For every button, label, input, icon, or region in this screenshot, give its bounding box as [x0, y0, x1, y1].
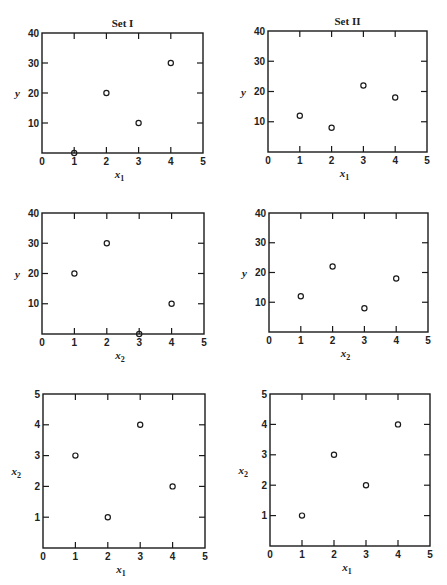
x-tick-label: 5: [200, 156, 206, 167]
plot-frame: [43, 394, 205, 548]
scatter-plot-matrix: Set I01234510203040x1ySet II012345102030…: [0, 0, 447, 585]
x-tick-label: 4: [395, 549, 401, 560]
data-point: [363, 483, 368, 488]
x-tick-label: 0: [39, 337, 45, 348]
scatter-panel-set2-x2-vs-x1: 01234512345x1x2: [238, 389, 434, 577]
scatter-panel-set2-y-vs-x2: 01234510203040x2y: [240, 208, 431, 363]
y-tick-label: 2: [34, 481, 40, 492]
data-point: [169, 301, 174, 306]
x-tick-label: 1: [73, 551, 79, 562]
x-tick-label: 5: [425, 335, 431, 346]
y-tick-label: 2: [261, 480, 267, 491]
data-point: [361, 83, 366, 88]
x-tick-label: 2: [331, 549, 337, 560]
x-tick-label: 4: [392, 155, 398, 166]
y-axis-label: y: [13, 268, 20, 280]
chart-title: Set I: [112, 17, 134, 29]
scatter-panel-set1-y-vs-x1: Set I01234510203040x1y: [13, 17, 206, 183]
y-tick-label: 20: [28, 268, 40, 279]
data-point: [72, 271, 77, 276]
y-axis-label: x2: [11, 465, 22, 480]
x-axis-label: x1: [114, 168, 125, 183]
data-point: [394, 276, 399, 281]
y-tick-label: 40: [28, 28, 40, 39]
data-point: [331, 452, 336, 457]
data-point: [298, 294, 303, 299]
x-tick-label: 3: [136, 337, 142, 348]
data-point: [362, 306, 367, 311]
y-axis-label: y: [13, 87, 20, 99]
y-tick-label: 1: [34, 512, 40, 523]
x-tick-label: 2: [330, 335, 336, 346]
x-tick-label: 4: [169, 337, 175, 348]
x-axis-label: x2: [340, 347, 351, 362]
x-tick-label: 3: [363, 549, 369, 560]
y-axis-label: y: [240, 267, 247, 279]
y-tick-label: 30: [254, 56, 266, 67]
y-tick-label: 20: [255, 267, 267, 278]
data-point: [297, 113, 302, 118]
data-point: [168, 60, 173, 65]
x-tick-label: 1: [297, 155, 303, 166]
scatter-panel-set1-x2-vs-x1: 01234512345x1x2: [11, 389, 209, 579]
x-tick-label: 5: [427, 549, 433, 560]
x-tick-label: 5: [201, 337, 207, 348]
y-tick-label: 4: [34, 419, 40, 430]
x-axis-label: x1: [339, 167, 350, 182]
x-tick-label: 1: [299, 549, 305, 560]
x-tick-label: 4: [168, 156, 174, 167]
scatter-panel-set1-y-vs-x2: 01234510203040x2y: [13, 208, 207, 365]
y-tick-label: 5: [34, 389, 40, 400]
y-tick-label: 40: [255, 208, 267, 219]
x-tick-label: 1: [71, 156, 77, 167]
y-tick-label: 10: [254, 116, 266, 127]
y-tick-label: 20: [254, 86, 266, 97]
y-tick-label: 30: [28, 58, 40, 69]
x-tick-label: 2: [104, 156, 110, 167]
data-point: [104, 90, 109, 95]
x-tick-label: 3: [361, 155, 367, 166]
data-point: [138, 422, 143, 427]
y-tick-label: 5: [261, 389, 267, 400]
x-tick-label: 1: [298, 335, 304, 346]
x-tick-label: 5: [202, 551, 208, 562]
y-tick-label: 1: [261, 510, 267, 521]
plot-frame: [42, 33, 203, 153]
data-point: [104, 241, 109, 246]
plot-frame: [269, 213, 428, 332]
y-tick-label: 10: [28, 298, 40, 309]
x-tick-label: 3: [362, 335, 368, 346]
plot-frame: [268, 31, 427, 152]
y-tick-label: 40: [254, 26, 266, 37]
data-point: [395, 422, 400, 427]
x-tick-label: 4: [393, 335, 399, 346]
x-axis-label: x1: [341, 561, 352, 576]
x-tick-label: 3: [137, 551, 143, 562]
y-tick-label: 30: [28, 238, 40, 249]
x-tick-label: 2: [105, 551, 111, 562]
figure-canvas: Set I01234510203040x1ySet II012345102030…: [0, 0, 447, 585]
y-tick-label: 30: [255, 237, 267, 248]
x-tick-label: 5: [424, 155, 430, 166]
x-tick-label: 0: [39, 156, 45, 167]
chart-title: Set II: [335, 15, 361, 27]
x-tick-label: 4: [170, 551, 176, 562]
x-tick-label: 0: [265, 155, 271, 166]
y-axis-label: y: [239, 86, 246, 98]
x-tick-label: 0: [267, 549, 273, 560]
scatter-panel-set2-y-vs-x1: Set II01234510203040x1y: [239, 15, 430, 182]
data-point: [330, 264, 335, 269]
y-tick-label: 10: [28, 118, 40, 129]
y-tick-label: 20: [28, 88, 40, 99]
plot-frame: [270, 394, 430, 546]
data-point: [329, 125, 334, 130]
x-axis-label: x1: [115, 563, 126, 578]
x-tick-label: 1: [72, 337, 78, 348]
data-point: [170, 484, 175, 489]
data-point: [299, 513, 304, 518]
y-axis-label: x2: [238, 464, 249, 479]
x-tick-label: 0: [40, 551, 46, 562]
plot-frame: [42, 213, 204, 334]
data-point: [393, 95, 398, 100]
data-point: [73, 453, 78, 458]
